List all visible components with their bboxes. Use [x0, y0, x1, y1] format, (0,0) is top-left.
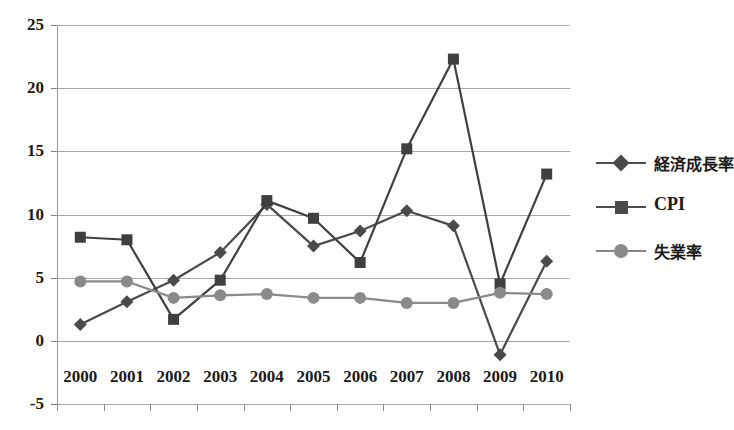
- data-point: [401, 143, 412, 154]
- data-point: [447, 297, 459, 309]
- data-point: [400, 204, 413, 217]
- data-point: [354, 224, 367, 237]
- data-point: [308, 213, 319, 224]
- legend-item-2[interactable]: 失業率: [596, 236, 727, 280]
- data-point: [494, 287, 506, 299]
- data-point: [447, 219, 460, 232]
- data-point: [121, 234, 132, 245]
- circle-marker-icon: [614, 244, 628, 258]
- data-point: [401, 297, 413, 309]
- data-point: [541, 169, 552, 180]
- data-point: [168, 314, 179, 325]
- data-point: [74, 275, 86, 287]
- series-square: [75, 54, 552, 325]
- data-point: [448, 54, 459, 65]
- legend-item-0[interactable]: 経済成長率: [596, 148, 727, 192]
- data-point: [121, 275, 133, 287]
- data-point: [494, 348, 507, 361]
- data-point: [261, 288, 273, 300]
- legend: 経済成長率 CPI 失業率: [596, 148, 727, 280]
- diamond-marker-icon: [613, 155, 630, 172]
- legend-label-2: 失業率: [654, 239, 702, 263]
- square-marker-icon: [615, 201, 628, 214]
- legend-label-1: CPI: [654, 194, 685, 215]
- data-point: [214, 289, 226, 301]
- data-point: [168, 292, 180, 304]
- data-point: [74, 318, 87, 331]
- data-point: [75, 232, 86, 243]
- data-point: [541, 288, 553, 300]
- data-point: [540, 255, 553, 268]
- data-point: [354, 292, 366, 304]
- data-point: [261, 195, 272, 206]
- data-point: [215, 275, 226, 286]
- legend-label-0: 経済成長率: [654, 151, 734, 175]
- data-point: [355, 257, 366, 268]
- data-point: [308, 292, 320, 304]
- data-point: [167, 274, 180, 287]
- legend-item-1[interactable]: CPI: [596, 192, 727, 236]
- data-point: [120, 295, 133, 308]
- series-line: [80, 59, 546, 319]
